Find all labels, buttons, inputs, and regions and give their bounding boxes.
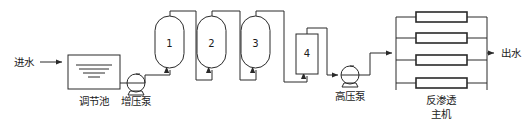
ro-module-4 bbox=[416, 78, 467, 88]
flow-diagram-canvas: 1 2 3 4 bbox=[0, 0, 525, 127]
regulating-basin-symbol bbox=[68, 55, 120, 89]
vessel-1-symbol: 1 bbox=[155, 16, 184, 68]
hp-pump-to-ro-pipe bbox=[359, 53, 392, 75]
booster-to-vessel1-pipe bbox=[145, 70, 170, 83]
ro-main-unit-label-line1: 反渗透 bbox=[426, 94, 457, 106]
vessel-2-symbol: 2 bbox=[197, 16, 226, 68]
vessel-3-label: 3 bbox=[252, 38, 258, 49]
ro-module-3 bbox=[416, 55, 467, 65]
booster-pump-symbol bbox=[127, 74, 145, 95]
regulating-basin-label: 调节池 bbox=[79, 95, 110, 107]
process-flow-diagram: 1 2 3 4 bbox=[0, 0, 525, 127]
ro-main-unit-symbol bbox=[396, 12, 487, 90]
ro-module-2 bbox=[416, 33, 467, 43]
high-pressure-pump-label: 高压泵 bbox=[335, 90, 366, 102]
ro-main-unit-label-line2: 主机 bbox=[431, 108, 452, 120]
vessel-4-symbol: 4 bbox=[296, 34, 318, 74]
vessel-4-label: 4 bbox=[304, 48, 310, 59]
vessel-2-label: 2 bbox=[208, 38, 214, 49]
outlet-label: 出水 bbox=[501, 47, 522, 59]
inlet-label: 进水 bbox=[14, 56, 35, 68]
vessel-3-symbol: 3 bbox=[241, 16, 270, 68]
ro-module-1 bbox=[416, 12, 467, 22]
vessel-1-label: 1 bbox=[166, 38, 172, 49]
booster-pump-label: 增压泵 bbox=[121, 95, 152, 107]
high-pressure-pump-symbol bbox=[341, 66, 359, 87]
